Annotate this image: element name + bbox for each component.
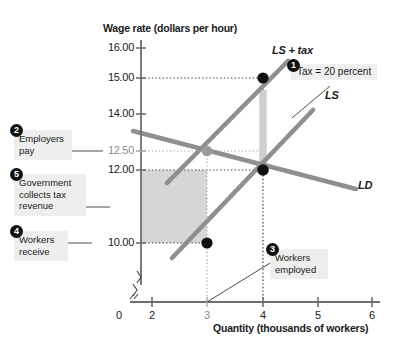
- annotation-workers-receive: Workers receive: [14, 231, 68, 261]
- annotation-government-line2: collects tax: [19, 189, 81, 201]
- annotation-employers-pay-line1: Employers: [19, 133, 67, 145]
- annotation-government-line1: Government: [19, 177, 81, 189]
- annotation-bullet-2: 2: [10, 124, 23, 137]
- annotation-government-line3: revenue: [19, 200, 81, 212]
- x-tick-label-3: 3: [197, 309, 217, 321]
- point-workers-receive: [201, 237, 212, 248]
- annotation-tax-note: Tax = 20 percent: [291, 64, 377, 80]
- annotation-government-tax-revenue: Government collects tax revenue: [14, 174, 86, 216]
- annotation-employers-pay: Employers pay: [14, 130, 72, 160]
- annotation-workers-employed: Workers employed: [270, 249, 328, 279]
- x-axis-title: Quantity (thousands of workers): [213, 322, 368, 334]
- point-employers-pay: [202, 146, 212, 156]
- x-tick-label-6: 6: [362, 309, 382, 321]
- x-tick-label-4: 4: [253, 309, 273, 321]
- annotation-bullet-5: 5: [10, 168, 23, 181]
- x-tick-label-2: 2: [142, 309, 162, 321]
- point-ls-plus-tax-q4: [257, 72, 268, 83]
- figure-canvas: Wage rate (dollars per hour) Quantity (t…: [0, 0, 393, 347]
- annotation-bullet-3: 3: [266, 243, 279, 256]
- point-no-tax-equilibrium: [257, 164, 269, 176]
- annotation-workers-employed-line1: Workers: [275, 252, 323, 264]
- annotation-workers-receive-line1: Workers: [19, 234, 63, 246]
- curve-label-ls-plus-tax: LS + tax: [272, 44, 313, 56]
- annotation-bullet-4: 4: [10, 225, 23, 238]
- x-tick-label-5: 5: [308, 309, 328, 321]
- x-tick-label-0: 0: [109, 309, 129, 321]
- annotation-workers-receive-line2: receive: [19, 246, 63, 258]
- annotation-employers-pay-line2: pay: [19, 145, 67, 157]
- y-tick-label-12: 12.00: [90, 163, 134, 175]
- y-tick-label-10: 10.00: [90, 236, 134, 248]
- axis-break-marks: [130, 271, 141, 299]
- annotation-workers-employed-line2: employed: [275, 264, 323, 276]
- y-tick-label-12-50: 12.50: [90, 144, 134, 156]
- y-axis-title: Wage rate (dollars per hour): [103, 22, 237, 34]
- y-tick-label-16: 16.00: [90, 41, 134, 53]
- annotation-bullet-1: 1: [287, 59, 300, 72]
- y-tick-label-14: 14.00: [90, 107, 134, 119]
- curve-label-ld: LD: [358, 179, 372, 191]
- y-tick-label-15: 15.00: [90, 71, 134, 83]
- curve-label-ls: LS: [325, 89, 339, 101]
